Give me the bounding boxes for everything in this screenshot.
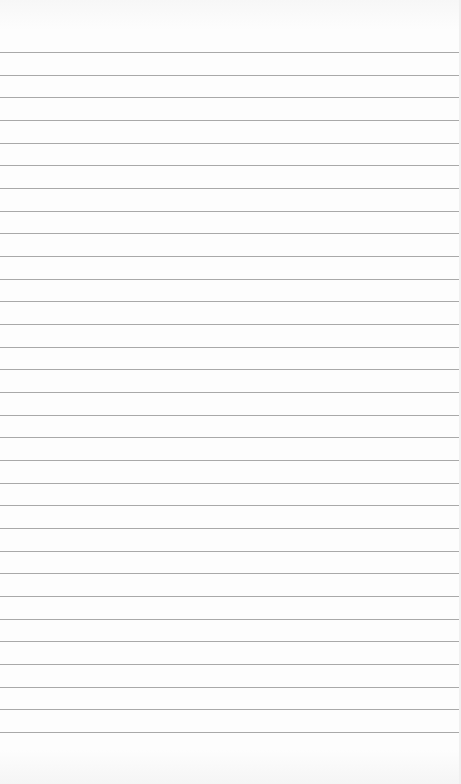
ruled-line xyxy=(0,664,459,665)
ruled-line xyxy=(0,97,459,98)
ruled-line xyxy=(0,687,459,688)
ruled-line xyxy=(0,143,459,144)
ruled-line xyxy=(0,392,459,393)
ruled-line xyxy=(0,301,459,302)
ruled-line xyxy=(0,233,459,234)
ruled-line xyxy=(0,165,459,166)
ruled-line xyxy=(0,279,459,280)
ruled-line xyxy=(0,505,459,506)
ruled-line xyxy=(0,641,459,642)
ruled-line xyxy=(0,211,459,212)
ruled-line xyxy=(0,437,459,438)
ruled-line xyxy=(0,75,459,76)
ruled-line xyxy=(0,415,459,416)
ruled-line xyxy=(0,528,459,529)
ruled-line xyxy=(0,369,459,370)
ruled-line xyxy=(0,460,459,461)
ruled-line xyxy=(0,120,459,121)
ruled-line xyxy=(0,347,459,348)
ruled-line xyxy=(0,188,459,189)
ruled-line xyxy=(0,483,459,484)
ruled-line xyxy=(0,52,459,53)
ruled-line xyxy=(0,596,459,597)
ruled-line xyxy=(0,732,459,733)
ruled-line xyxy=(0,551,459,552)
lined-paper-page xyxy=(0,0,461,784)
ruled-line xyxy=(0,573,459,574)
ruled-line xyxy=(0,619,459,620)
ruled-line xyxy=(0,709,459,710)
ruled-line xyxy=(0,324,459,325)
ruled-line xyxy=(0,256,459,257)
